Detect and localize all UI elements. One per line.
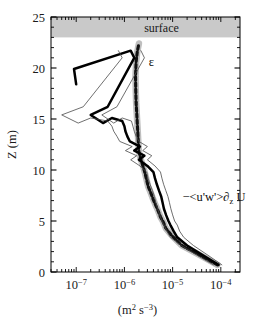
y-axis-title: Z (m): [5, 130, 19, 159]
axes-group: [51, 17, 240, 272]
y-tick-label: 20: [33, 62, 46, 76]
y-axis-tick-labels: 0510152025: [33, 11, 46, 280]
y-tick-label: 0: [39, 266, 45, 280]
y-tick-label: 10: [33, 164, 46, 178]
x-axis-title: (m2 s−3): [118, 302, 157, 318]
surface-band-label: surface: [144, 21, 179, 35]
y-tick-label: 25: [33, 11, 46, 25]
y-tick-label: 15: [33, 113, 46, 127]
x-axis-tick-labels: 10−710−610−510−4: [65, 277, 232, 293]
y-tick-label: 5: [39, 215, 45, 229]
epsilon-label: ε: [149, 55, 154, 69]
series-band-epsilon: [136, 44, 218, 265]
series-line-epsilon: [136, 44, 218, 265]
y-axis-ticks: [51, 17, 240, 272]
x-tick-label: 10−5: [162, 277, 184, 293]
stress-production-label: −<u'w'>∂z U: [182, 190, 245, 206]
series-uncertainty-bands: [136, 44, 218, 265]
series-lines-group: [62, 44, 222, 265]
turbulence-dissipation-profile-figure: surface 10−710−610−510−4 0510152025 (m2 …: [0, 0, 260, 327]
x-tick-label: 10−4: [210, 277, 232, 293]
shaded-surface-band: surface: [51, 17, 240, 37]
series-line-stress-production: [74, 51, 219, 265]
x-tick-label: 10−6: [114, 277, 136, 293]
plot-canvas: surface 10−710−610−510−4 0510152025 (m2 …: [0, 0, 260, 327]
x-tick-label: 10−7: [65, 277, 87, 293]
plot-frame: [51, 17, 240, 272]
